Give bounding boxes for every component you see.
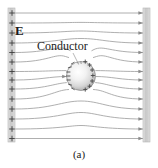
right-plate <box>138 8 150 142</box>
conductor-label: Conductor <box>37 40 88 52</box>
field-line <box>15 56 69 62</box>
electric-field-label: E <box>15 24 24 37</box>
field-line <box>93 56 143 62</box>
field-line-arrowheads <box>138 11 143 140</box>
field-line <box>15 71 67 72</box>
field-line <box>93 90 143 100</box>
field-line <box>15 113 143 120</box>
field-line <box>15 101 143 109</box>
conductor-entry-arrowhead <box>62 75 66 78</box>
field-line <box>15 90 69 100</box>
left-plate <box>8 8 15 142</box>
field-line <box>92 48 144 52</box>
physics-figure-conductor-in-field: E Conductor (a) <box>0 0 158 168</box>
field-line <box>15 31 143 33</box>
field-line <box>95 71 143 72</box>
field-line <box>15 126 143 130</box>
field-line <box>96 77 144 81</box>
field-diagram-svg <box>0 0 158 168</box>
field-line <box>95 83 143 89</box>
right-plate-body <box>143 8 150 142</box>
figure-caption: (a) <box>0 148 158 160</box>
conductor-leader-line <box>73 53 78 62</box>
field-line <box>15 22 143 23</box>
field-line <box>15 77 67 81</box>
left-plate-body <box>8 8 15 142</box>
field-line <box>15 83 67 89</box>
